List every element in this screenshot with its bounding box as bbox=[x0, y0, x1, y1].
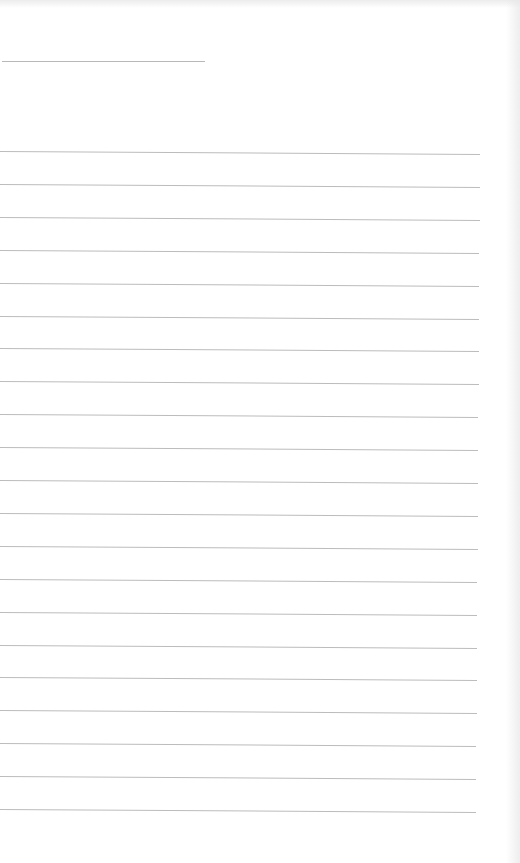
ruled-line bbox=[0, 283, 479, 287]
ruled-line bbox=[0, 480, 478, 484]
scan-top-shadow bbox=[0, 0, 520, 8]
ruled-line bbox=[0, 612, 477, 616]
ruled-line bbox=[0, 414, 478, 418]
ruled-line bbox=[0, 217, 480, 221]
ruled-line bbox=[0, 677, 477, 681]
ruled-line bbox=[0, 776, 476, 780]
ruled-line bbox=[0, 809, 476, 813]
ruled-line bbox=[0, 513, 478, 517]
ruled-line bbox=[0, 184, 480, 188]
ruled-line bbox=[0, 348, 479, 352]
ruled-line bbox=[0, 546, 478, 550]
ruled-line bbox=[0, 579, 477, 583]
ruled-line bbox=[0, 381, 479, 385]
ruled-line bbox=[0, 710, 477, 714]
ruled-line bbox=[0, 316, 479, 320]
ruled-line bbox=[0, 447, 478, 451]
ruled-paper-sheet bbox=[0, 0, 520, 863]
title-underline bbox=[2, 61, 205, 62]
ruled-line bbox=[0, 743, 476, 747]
scan-right-shadow bbox=[506, 0, 520, 863]
ruled-line bbox=[0, 151, 480, 155]
ruled-line bbox=[0, 250, 479, 254]
ruled-line bbox=[0, 645, 477, 649]
